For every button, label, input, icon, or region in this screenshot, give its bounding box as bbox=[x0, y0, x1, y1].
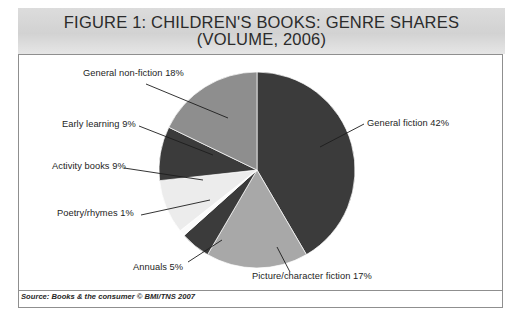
figure-container: FIGURE 1: CHILDREN'S BOOKS: GENRE SHARES… bbox=[0, 0, 519, 331]
chart-content-box bbox=[18, 54, 503, 308]
source-divider bbox=[18, 290, 503, 291]
pie-label-activity-books: Activity books 9% bbox=[52, 161, 126, 171]
pie-label-picture-character-fiction: Picture/character fiction 17% bbox=[252, 271, 372, 281]
figure-title-banner: FIGURE 1: CHILDREN'S BOOKS: GENRE SHARES… bbox=[18, 8, 505, 54]
pie-label-annuals: Annuals 5% bbox=[133, 262, 183, 272]
pie-label-general-non-fiction: General non-fiction 18% bbox=[83, 68, 184, 78]
pie-label-poetry-rhymes: Poetry/rhymes 1% bbox=[57, 208, 134, 218]
page-title: FIGURE 1: CHILDREN'S BOOKS: GENRE SHARES… bbox=[58, 14, 465, 49]
pie-label-early-learning: Early learning 9% bbox=[62, 119, 136, 129]
source-citation: Source: Books & the consumer © BMI/TNS 2… bbox=[21, 292, 195, 301]
pie-label-general-fiction: General fiction 42% bbox=[367, 118, 449, 128]
